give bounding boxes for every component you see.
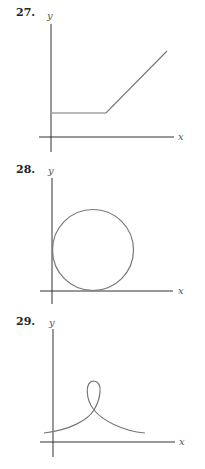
x-axis-label: x <box>179 436 185 447</box>
y-axis-label: y <box>47 165 54 176</box>
piecewise-curve <box>52 51 167 113</box>
y-axis-label: y <box>46 10 53 21</box>
x-axis-label: x <box>178 285 184 296</box>
x-axis-label: x <box>178 131 184 142</box>
y-axis-label: y <box>48 317 55 328</box>
graph-29: y x <box>40 317 185 457</box>
graphs-canvas: y x y x y x <box>0 0 205 469</box>
graph-27: y x <box>39 10 184 152</box>
circle-curve <box>53 210 134 291</box>
loop-curve <box>44 381 145 433</box>
graph-28: y x <box>40 165 184 304</box>
